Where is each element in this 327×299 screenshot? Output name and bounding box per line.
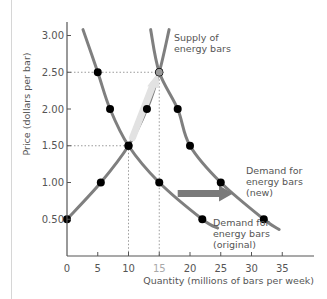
- curve-labels: Supply ofenergy barsDemand forenergy bar…: [174, 32, 303, 250]
- demand-original-point: [94, 68, 102, 76]
- supply-demand-chart: 0.501.001.502.002.503.0005101520253035Pr…: [0, 0, 327, 299]
- demand-original-label: energy bars: [213, 228, 270, 239]
- x-tick-label: 15: [153, 263, 166, 274]
- y-tick-label: 0.50: [42, 214, 64, 225]
- y-tick-label: 1.50: [42, 140, 64, 151]
- demand-original-label: (original): [213, 239, 256, 250]
- x-tick-label: 25: [214, 263, 227, 274]
- y-tick-label: 3.00: [42, 30, 64, 41]
- demand-new-point: [174, 105, 182, 113]
- supply-label: Supply of: [174, 32, 219, 43]
- demand-original-point: [125, 142, 133, 150]
- x-tick-label: 0: [64, 263, 70, 274]
- y-axis-title: Price (dollars per bar): [21, 53, 32, 156]
- y-tick-label: 1.00: [42, 177, 64, 188]
- demand-original-point: [106, 105, 114, 113]
- x-tick-label: 20: [184, 263, 197, 274]
- demand-new-curve: [151, 30, 280, 230]
- supply-point: [97, 179, 105, 187]
- demand-new-point: [186, 142, 194, 150]
- x-tick-label: 5: [95, 263, 101, 274]
- axes: 0.501.001.502.002.503.0005101520253035Pr…: [21, 22, 314, 286]
- demand-new-point: [217, 179, 225, 187]
- demand-original-label: Demand for: [213, 217, 269, 228]
- data-points: [63, 68, 268, 223]
- x-tick-label: 10: [122, 263, 135, 274]
- demand-original-point: [198, 215, 206, 223]
- x-axis-title: Quantity (millions of bars per week): [143, 275, 314, 286]
- demand-new-label: energy bars: [246, 176, 303, 187]
- supply-point: [143, 105, 151, 113]
- demand-original-curve: [83, 30, 218, 228]
- x-tick-label: 30: [245, 263, 258, 274]
- x-tick-label: 35: [276, 263, 289, 274]
- curves: [67, 30, 279, 230]
- supply-label: energy bars: [174, 43, 231, 54]
- y-tick-label: 2.50: [42, 67, 64, 78]
- y-tick-label: 2.00: [42, 104, 64, 115]
- demand-new-label: (new): [246, 187, 273, 198]
- new-equilibrium-point: [156, 69, 163, 76]
- demand-original-point: [155, 179, 163, 187]
- demand-new-label: Demand for: [246, 165, 302, 176]
